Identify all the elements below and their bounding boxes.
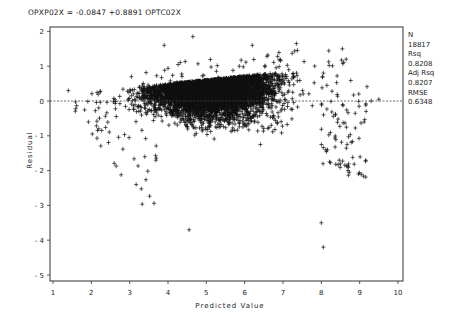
x-tick-label: 5 — [204, 289, 208, 297]
x-tick-label: 8 — [319, 289, 323, 297]
x-tick-label: 4 — [166, 289, 171, 297]
x-tick-label: 9 — [357, 289, 361, 297]
y-tick-label: 0 — [40, 98, 44, 106]
data-points — [66, 34, 381, 249]
y-tick-label: - 1 — [35, 132, 44, 140]
x-tick-label: 1 — [51, 289, 55, 297]
y-tick-label: - 2 — [35, 167, 44, 175]
x-tick-label: 2 — [89, 289, 93, 297]
y-tick-label: 2 — [40, 28, 44, 36]
x-tick-label: 10 — [394, 289, 403, 297]
y-axis: 210- 1- 2- 3- 4- 5 — [35, 28, 50, 280]
y-tick-label: - 3 — [35, 202, 44, 210]
y-tick-label: - 5 — [35, 272, 44, 280]
x-tick-label: 7 — [281, 289, 285, 297]
x-axis: 12345678910 — [51, 281, 403, 297]
scatter-plot: 12345678910 210- 1- 2- 3- 4- 5 — [0, 0, 454, 332]
x-tick-label: 6 — [242, 289, 247, 297]
y-tick-label: - 4 — [35, 237, 45, 245]
x-tick-label: 3 — [127, 289, 131, 297]
plot-frame — [50, 27, 403, 281]
y-tick-label: 1 — [40, 63, 44, 71]
